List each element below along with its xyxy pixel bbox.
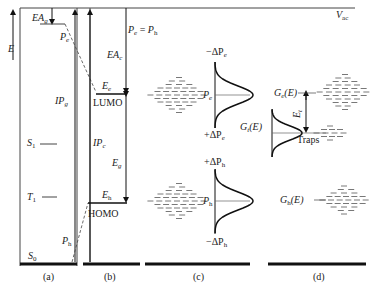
hole-state-cluster — [147, 184, 206, 219]
energy-axis-label: E — [7, 43, 14, 54]
caption-c: (c) — [193, 271, 204, 283]
electron-state-cluster — [147, 78, 206, 113]
caption-b: (b) — [104, 271, 116, 283]
energy-level-diagram: Vac E EAg IPg Pe S1 T1 S0 Ph — [0, 0, 384, 289]
e-g-label: Eg — [111, 157, 122, 170]
panel-c: −ΔPe +ΔPe Pe +ΔPh −ΔPh Ph — [145, 46, 253, 264]
pe-equals-ph-label: Pe = Ph — [127, 24, 158, 37]
plus-delta-ph-label: +ΔPh — [204, 156, 226, 169]
electron-polarization-dashed — [65, 24, 96, 92]
p-e-label: Pe — [59, 31, 69, 44]
gt-label: Gt(E) — [240, 121, 263, 134]
ea-c-label: EAc — [106, 49, 123, 62]
electron-state-cluster-d — [317, 75, 370, 110]
ph-label: Ph — [202, 195, 213, 208]
ip-c-label: IPc — [92, 137, 106, 150]
s1-label: S1 — [27, 137, 36, 150]
ge-label: Ge(E) — [274, 87, 298, 100]
p-h-label: Ph — [61, 235, 72, 248]
traps-label: Traps — [297, 134, 320, 145]
e-e-label: Ee — [101, 80, 111, 93]
plus-delta-pe-label: +ΔPe — [204, 129, 225, 142]
minus-delta-ph-label: −ΔPh — [206, 236, 228, 249]
caption-d: (d) — [313, 271, 325, 283]
s0-label: S0 — [28, 250, 37, 263]
t1-label: T1 — [27, 191, 37, 204]
panel-b: Ee LUMO Eh HOMO EAc IPc Eg Pe = Ph — [83, 8, 158, 264]
pe-label: Pe — [202, 89, 212, 102]
lumo-label: LUMO — [93, 97, 122, 108]
ea-g-label: EAg — [31, 12, 48, 25]
panel-a: EAg IPg Pe S1 T1 S0 Ph — [20, 8, 77, 266]
panel-d: Et Ge(E) Gt(E) Traps Gh(E) — [240, 75, 369, 265]
e-t-label: Et — [291, 109, 304, 119]
hole-polarization-dashed — [72, 203, 88, 262]
vacuum-level-label: Vac — [336, 9, 348, 22]
caption-a: (a) — [43, 271, 54, 283]
ip-g-label: IPg — [54, 95, 68, 108]
minus-delta-pe-label: −ΔPe — [206, 46, 227, 59]
gh-label: Gh(E) — [280, 194, 304, 207]
homo-label: HOMO — [88, 208, 119, 219]
hole-state-cluster-d — [319, 186, 368, 214]
e-h-label: Eh — [101, 189, 112, 202]
